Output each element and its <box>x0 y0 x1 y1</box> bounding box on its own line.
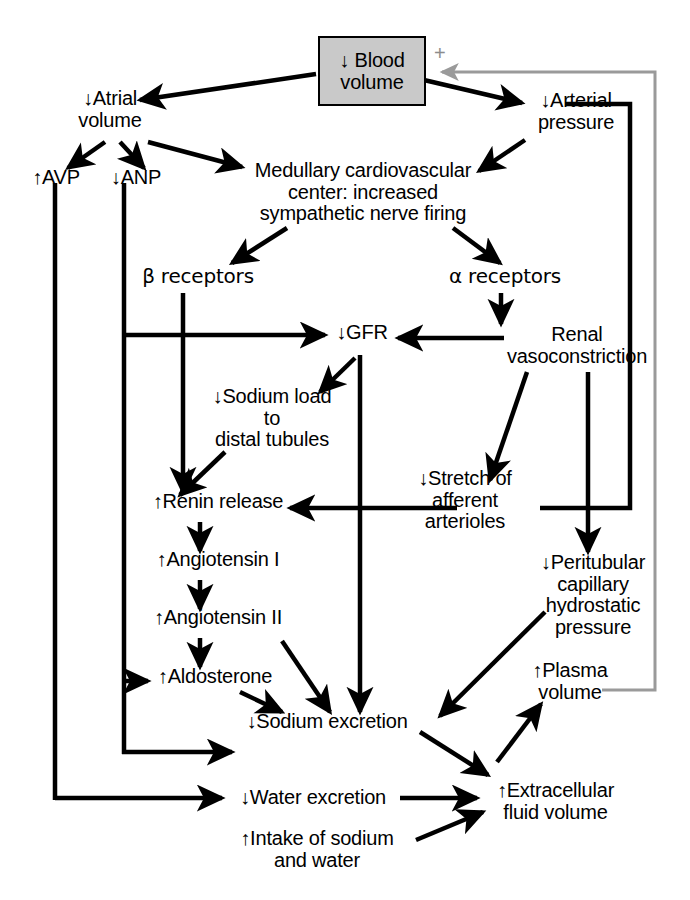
node-extracellular-fluid[interactable]: ↑Extracellular fluid volume <box>478 780 633 823</box>
edge-atrialvolume-avp <box>68 142 105 168</box>
node-renal-vasoconstriction[interactable]: Renal vasoconstriction <box>502 324 652 367</box>
bus-arterialpressure-elbow <box>540 104 630 508</box>
node-avp[interactable]: ↑AVP <box>16 167 96 189</box>
node-angiotensin-i[interactable]: ↑Angiotensin I <box>138 549 298 571</box>
node-arterial-pressure[interactable]: ↓Arterial pressure <box>516 90 636 133</box>
node-plasma-volume[interactable]: ↑Plasma volume <box>520 660 620 703</box>
edge-medullary-alpha <box>453 228 500 263</box>
edge-ecf-plasmavolume <box>497 704 541 762</box>
node-atrial-volume[interactable]: ↓Atrial volume <box>55 88 165 131</box>
edge-intake-ecf <box>416 812 483 840</box>
feedback-sign-plus: + <box>434 42 446 65</box>
flowchart-canvas: ↓ Blood volume + ↓Atrial volume ↓Arteria… <box>0 0 690 900</box>
node-stretch-afferent[interactable]: ↓Stretch of afferent arterioles <box>405 468 525 533</box>
node-peritubular[interactable]: ↓Peritubular capillary hydrostatic press… <box>520 552 666 638</box>
edge-medullary-beta <box>232 228 287 263</box>
edge-sodiumexcretion-ecf <box>420 732 488 775</box>
edge-aldosterone-sodiumexcretion <box>240 692 282 712</box>
node-anp[interactable]: ↓ANP <box>96 167 176 189</box>
node-gfr[interactable]: ↓GFR <box>327 322 397 344</box>
node-beta-receptors[interactable]: β receptors <box>128 266 268 288</box>
node-sodium-load[interactable]: ↓Sodium load to distal tubules <box>192 386 352 451</box>
edge-bloodvolume-arterialpressure <box>424 80 522 103</box>
node-water-excretion[interactable]: ↓Water excretion <box>222 787 404 809</box>
edge-atrialvolume-anp <box>120 142 144 168</box>
node-alpha-receptors[interactable]: α receptors <box>440 266 570 288</box>
node-sodium-excretion[interactable]: ↓Sodium excretion <box>232 711 422 733</box>
node-renin-release[interactable]: ↑Renin release <box>138 491 298 513</box>
node-aldosterone[interactable]: ↑Aldosterone <box>140 666 290 688</box>
edge-bloodvolume-atrialvolume <box>140 74 316 100</box>
node-medullary-center[interactable]: Medullary cardiovascular center: increas… <box>218 160 508 225</box>
node-angiotensin-ii[interactable]: ↑Angiotensin II <box>138 607 298 629</box>
node-blood-volume[interactable]: ↓ Blood volume <box>318 36 426 106</box>
node-intake[interactable]: ↑Intake of sodium and water <box>212 828 422 871</box>
edge-sodiumload-renin <box>180 452 225 495</box>
edge-renalvaso-stretch <box>490 372 527 480</box>
